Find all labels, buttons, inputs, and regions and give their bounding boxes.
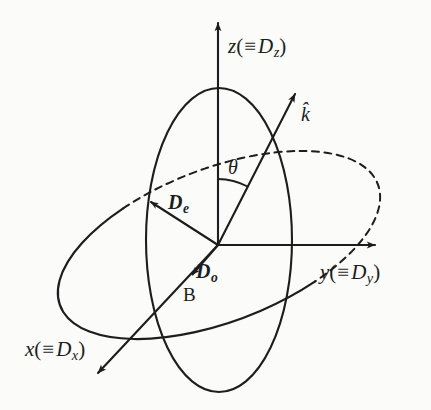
z-axis-equivalence-icon: ≡ <box>243 34 258 58</box>
figure-root: z(≡Dz) y(≡Dy) x(≡Dx) k̂ θ De Do B <box>0 0 431 410</box>
d-o-vector-label: Do <box>196 261 218 284</box>
x-axis-close-paren: ) <box>78 337 85 361</box>
y-axis-label: y(≡Dy) <box>320 262 380 285</box>
y-axis-d-symbol: D <box>351 260 366 284</box>
y-axis-identifier: y <box>320 260 329 284</box>
theta-angle-label: θ <box>228 157 238 177</box>
z-axis-close-paren: ) <box>279 34 286 58</box>
d-e-subscript: e <box>182 201 189 216</box>
k-vector-label: k̂ <box>301 104 310 124</box>
x-axis-identifier: x <box>25 337 34 361</box>
z-axis-label: z(≡Dz) <box>228 36 286 59</box>
d-o-symbol: D <box>196 260 210 282</box>
d-e-symbol: D <box>168 191 182 213</box>
d-e-vector-label: De <box>168 192 189 215</box>
y-axis-equivalence-icon: ≡ <box>336 260 351 284</box>
x-axis-d-symbol: D <box>56 337 71 361</box>
z-axis-identifier: z <box>228 34 236 58</box>
x-axis-equivalence-icon: ≡ <box>41 337 56 361</box>
y-axis-close-paren: ) <box>373 260 380 284</box>
z-axis-d-symbol: D <box>258 34 273 58</box>
x-axis-label: x(≡Dx) <box>25 339 85 362</box>
point-b-label: B <box>183 285 196 304</box>
theta-arc <box>218 179 248 187</box>
wave-normal-ellipse-front <box>58 208 315 339</box>
d-o-subscript: o <box>210 270 217 285</box>
